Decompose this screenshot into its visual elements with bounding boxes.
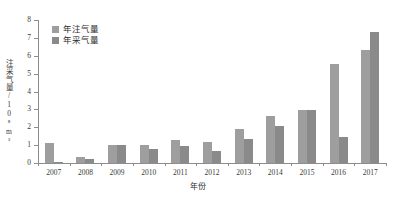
x-tick xyxy=(196,163,197,166)
x-axis-title: 年份 xyxy=(0,180,395,191)
bar-injection xyxy=(76,157,85,163)
y-axis-line xyxy=(38,20,39,163)
bar-production xyxy=(244,139,253,163)
bar-injection xyxy=(108,145,117,163)
y-tick-label: 4 xyxy=(27,87,31,96)
bar-production xyxy=(307,110,316,163)
legend-label: 年采气量 xyxy=(63,36,99,45)
bar-production xyxy=(149,149,158,163)
legend-swatch-icon xyxy=(52,26,59,33)
y-tick-label: 7 xyxy=(27,33,31,42)
x-tick xyxy=(101,163,102,166)
y-tick-label: 2 xyxy=(27,122,31,131)
bar-production xyxy=(370,32,379,163)
y-tick-label: 0 xyxy=(27,158,31,167)
y-axis-title: 注采气量/10⁸m³ xyxy=(2,52,16,152)
legend-label: 年注气量 xyxy=(63,25,99,34)
x-tick-label: 2008 xyxy=(78,168,93,177)
bar-production xyxy=(54,162,63,163)
x-tick xyxy=(165,163,166,166)
bar-injection xyxy=(45,143,54,163)
x-tick xyxy=(133,163,134,166)
bar-injection xyxy=(235,129,244,163)
chart-legend: 年注气量年采气量 xyxy=(52,25,99,45)
x-tick xyxy=(354,163,355,166)
x-tick xyxy=(228,163,229,166)
bar-production xyxy=(212,151,221,163)
x-tick-label: 2013 xyxy=(236,168,251,177)
x-tick xyxy=(386,163,387,166)
x-tick-label: 2016 xyxy=(331,168,346,177)
x-tick-label: 2012 xyxy=(205,168,220,177)
y-tick: 8 xyxy=(34,20,38,21)
x-tick-label: 2014 xyxy=(268,168,283,177)
bar-production xyxy=(117,145,126,163)
x-tick-label: 2009 xyxy=(110,168,125,177)
x-tick xyxy=(323,163,324,166)
x-tick-label: 2017 xyxy=(363,168,378,177)
x-tick xyxy=(70,163,71,166)
legend-item: 年采气量 xyxy=(52,36,99,45)
y-tick-label: 5 xyxy=(27,69,31,78)
y-tick: 6 xyxy=(34,56,38,57)
x-tick-label: 2007 xyxy=(46,168,61,177)
x-tick xyxy=(259,163,260,166)
y-tick-label: 3 xyxy=(27,104,31,113)
bar-injection xyxy=(203,142,212,163)
y-tick: 7 xyxy=(34,38,38,39)
bar-production xyxy=(85,159,94,163)
x-tick-label: 2015 xyxy=(299,168,314,177)
bar-injection xyxy=(266,116,275,163)
bar-injection xyxy=(171,140,180,163)
y-tick: 2 xyxy=(34,127,38,128)
y-tick: 4 xyxy=(34,92,38,93)
y-tick: 5 xyxy=(34,74,38,75)
y-tick-label: 8 xyxy=(27,15,31,24)
bar-injection xyxy=(140,145,149,163)
bar-production xyxy=(275,126,284,163)
bar-injection xyxy=(330,64,339,163)
bar-injection xyxy=(361,50,370,163)
bar-chart: 注采气量/10⁸m³ 012345678 2007200820092010201… xyxy=(0,0,395,203)
x-tick xyxy=(291,163,292,166)
bar-production xyxy=(180,146,189,163)
legend-swatch-icon xyxy=(52,37,59,44)
x-axis-line xyxy=(38,163,386,164)
x-tick-label: 2011 xyxy=(173,168,188,177)
legend-item: 年注气量 xyxy=(52,25,99,34)
x-tick-label: 2010 xyxy=(141,168,156,177)
bar-production xyxy=(339,137,348,163)
y-tick: 1 xyxy=(34,145,38,146)
x-tick xyxy=(38,163,39,166)
y-tick-label: 1 xyxy=(27,140,31,149)
y-tick: 3 xyxy=(34,109,38,110)
y-tick-label: 6 xyxy=(27,51,31,60)
bar-injection xyxy=(298,110,307,163)
